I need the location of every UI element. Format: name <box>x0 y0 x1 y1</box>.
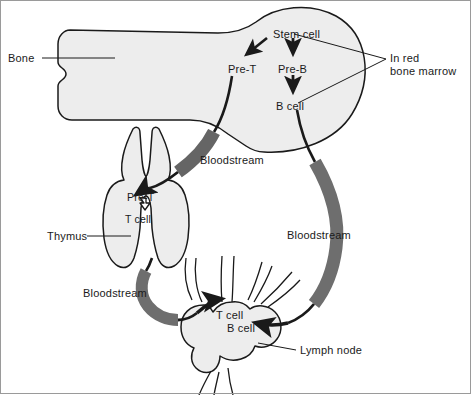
afferent-vessels <box>185 256 300 307</box>
label-bloodstream-upper: Bloodstream <box>200 154 264 167</box>
label-stem-cell: Stem cell <box>273 28 320 41</box>
label-b-cell-marrow: B cell <box>276 100 304 113</box>
label-pre-t-thymus: Pre-T <box>127 191 154 204</box>
label-in-red-bone-marrow: In red bone marrow <box>390 52 456 78</box>
label-pre-t-marrow: Pre-T <box>228 63 257 76</box>
label-bloodstream-right: Bloodstream <box>287 229 351 242</box>
label-lymph-node: Lymph node <box>300 344 362 357</box>
label-b-cell-lymph-node: B cell <box>227 322 255 335</box>
diagram-page: Bone In red bone marrow Thymus Lymph nod… <box>0 0 472 395</box>
label-bone: Bone <box>8 52 35 65</box>
label-t-cell-thymus: T cell <box>125 213 151 226</box>
label-thymus: Thymus <box>47 230 87 243</box>
label-bloodstream-lower: Bloodstream <box>83 287 147 300</box>
label-pre-b-marrow: Pre-B <box>278 63 307 76</box>
label-t-cell-lymph-node: T cell <box>216 309 243 322</box>
